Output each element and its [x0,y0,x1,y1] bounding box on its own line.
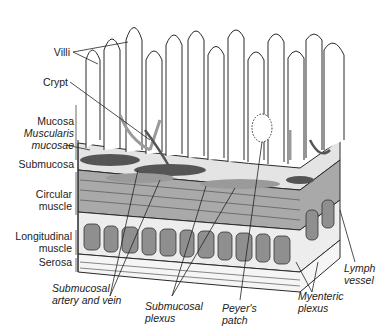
label-patch: patch [222,314,248,326]
peyers-patch [252,114,272,142]
label-plexus: plexus [145,312,175,324]
label-longitudinal-muscle: muscle [0,242,72,254]
label-myenteric-plexus: plexus [298,302,328,314]
label-artery-and-vein: artery and vein [52,294,121,306]
label-mucosae: mucosae [0,139,74,151]
label-circular-muscle: muscle [0,200,72,212]
label-muscularis: Muscularis [0,127,74,139]
label-submucosal-artery: Submucosal [52,282,110,294]
label-serosa: Serosa [0,256,72,268]
label-peyers: Peyer's [222,302,257,314]
label-mucosa: Mucosa [0,115,74,127]
label-lymph-vessel: vessel [344,274,374,286]
label-circular: Circular [0,188,72,200]
label-lymph: Lymph [344,262,375,274]
label-myenteric: Myenteric [298,290,344,302]
label-longitudinal: Longitudinal [0,230,72,242]
villi [86,28,344,165]
label-villi: Villi [30,46,70,58]
label-submucosal-plexus: Submucosal [145,300,203,312]
label-submucosa: Submucosa [0,158,74,170]
label-crypt: Crypt [20,76,68,88]
